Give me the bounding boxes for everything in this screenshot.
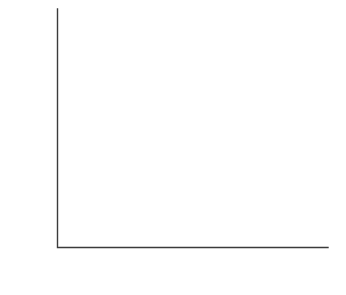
chart-canvas [0,0,346,295]
plot-axes [58,9,329,248]
axis-lines [58,9,329,248]
amniotic-fluid-volume-chart [0,0,346,295]
